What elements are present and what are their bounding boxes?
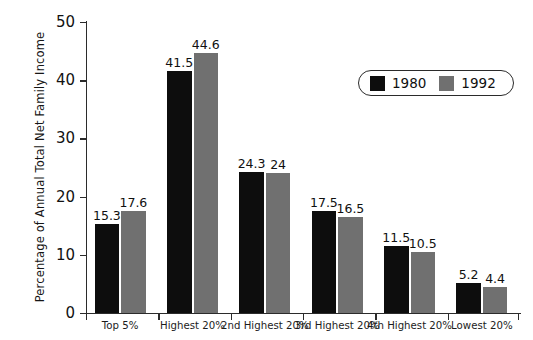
bar-value-label: 11.5 (382, 232, 410, 245)
legend-label-1980: 1980 (392, 75, 426, 91)
bar-1980-1 (167, 71, 192, 313)
bar-value-label: 24.3 (238, 157, 266, 170)
bar-1980-4 (384, 246, 409, 313)
y-axis-tick-label: 20 (56, 188, 75, 206)
bar-value-label: 41.5 (165, 57, 193, 70)
x-axis-group-label: Lowest 20% (451, 320, 513, 331)
bar-value-label: 17.6 (119, 196, 147, 209)
y-axis-tick (80, 138, 87, 139)
bar-value-label: 24 (270, 159, 286, 172)
legend: 1980 1992 (358, 70, 514, 96)
x-axis-tick (375, 313, 376, 320)
bar-chart: Percentage of Annual Total Net Family In… (0, 0, 533, 340)
x-axis-tick (158, 313, 159, 320)
bar-1980-3 (312, 211, 337, 313)
bar-1992-2 (266, 173, 291, 313)
x-axis-group-label: Highest 20% (160, 320, 225, 331)
bar-1980-5 (456, 283, 481, 313)
y-axis-tick (80, 255, 87, 256)
y-axis-tick (80, 197, 87, 198)
x-axis-group-label: 4th Highest 20% (367, 320, 452, 331)
y-axis-tick (80, 80, 87, 81)
x-axis-tick (231, 313, 232, 320)
bar-1992-5 (483, 287, 508, 313)
bar-value-label: 10.5 (409, 237, 437, 250)
bar-1992-4 (411, 252, 436, 313)
bar-value-label: 44.6 (192, 39, 220, 52)
bar-1992-1 (194, 53, 219, 313)
bar-1980-2 (239, 172, 264, 313)
y-axis-tick-label: 10 (56, 246, 75, 264)
y-axis-title: Percentage of Annual Total Net Family In… (33, 7, 47, 327)
bar-1980-0 (95, 224, 120, 313)
x-axis-tick (448, 313, 449, 320)
bar-value-label: 4.4 (485, 273, 505, 286)
y-axis-tick-label: 40 (56, 71, 75, 89)
y-axis-tick-label: 50 (56, 13, 75, 31)
bar-value-label: 5.2 (459, 268, 479, 281)
legend-swatch-1980 (370, 76, 385, 91)
x-axis-tick (518, 313, 519, 320)
y-axis-tick (80, 22, 87, 23)
x-axis-group-label: Top 5% (102, 320, 139, 331)
bar-value-label: 15.3 (93, 209, 121, 222)
x-axis-tick (86, 313, 87, 320)
bar-value-label: 17.5 (310, 197, 338, 210)
legend-swatch-1992 (439, 76, 454, 91)
y-axis-tick-label: 30 (56, 129, 75, 147)
bar-value-label: 16.5 (336, 202, 364, 215)
bar-1992-3 (338, 217, 363, 313)
x-axis-tick (303, 313, 304, 320)
y-axis-tick-label: 0 (65, 304, 75, 322)
legend-label-1992: 1992 (461, 75, 495, 91)
bar-1992-0 (121, 211, 146, 313)
plot-area: 0102030405015.317.641.544.624.32417.516.… (87, 22, 521, 313)
